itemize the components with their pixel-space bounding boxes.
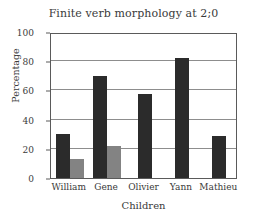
y-tick-mark [46, 62, 50, 63]
bar [138, 94, 152, 178]
y-tick-label: 80 [4, 57, 34, 67]
bar [70, 159, 84, 178]
x-tick-label: William [51, 182, 86, 192]
y-tick-label: 100 [4, 28, 34, 38]
y-tick-mark [46, 149, 50, 150]
bar [212, 136, 226, 178]
chart-title: Finite verb morphology at 2;0 [0, 7, 267, 20]
y-tick-mark [46, 179, 50, 180]
bar-chart: Finite verb morphology at 2;0 Percentage… [0, 0, 267, 224]
bar [107, 146, 121, 178]
y-tick-label: 40 [4, 116, 34, 126]
x-axis-label: Children [50, 200, 237, 211]
y-axis-label: Percentage [10, 36, 21, 116]
y-tick-mark [46, 33, 50, 34]
gridline [51, 89, 236, 90]
plot-area [50, 33, 237, 179]
y-tick-label: 0 [4, 174, 34, 184]
bar [93, 76, 107, 178]
x-tick-label: Yann [170, 182, 192, 192]
y-tick-label: 20 [4, 145, 34, 155]
gridline [51, 60, 236, 61]
x-tick-label: Mathieu [199, 182, 237, 192]
bar [175, 58, 189, 178]
y-tick-mark [46, 91, 50, 92]
x-tick-label: Gene [94, 182, 118, 192]
x-tick-label: Olivier [128, 182, 159, 192]
bar [56, 134, 70, 178]
y-tick-label: 60 [4, 86, 34, 96]
y-tick-mark [46, 120, 50, 121]
